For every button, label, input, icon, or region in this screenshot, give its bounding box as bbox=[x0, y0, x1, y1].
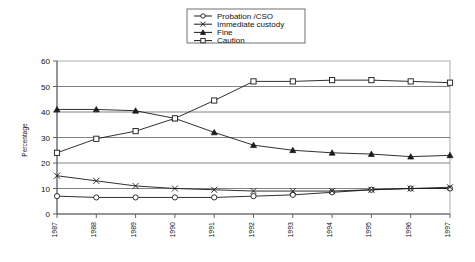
line-chart-container: 0102030405060 19871988198919901991199219… bbox=[0, 0, 475, 262]
x-axis-tick-labels: 1987198819891990199119921993199419951996… bbox=[51, 222, 451, 238]
data-point-marker bbox=[94, 136, 99, 141]
data-point-marker bbox=[94, 195, 99, 200]
data-point-marker bbox=[447, 80, 452, 85]
x-tick-label: 1995 bbox=[365, 222, 372, 238]
x-tick-label: 1990 bbox=[169, 222, 176, 238]
y-tick-label: 0 bbox=[46, 210, 51, 219]
data-point-marker bbox=[133, 129, 138, 134]
x-tick-label: 1996 bbox=[405, 222, 412, 238]
data-point-marker bbox=[212, 98, 217, 103]
gridlines bbox=[57, 87, 450, 189]
data-point-marker bbox=[290, 79, 295, 84]
series-line bbox=[57, 109, 450, 156]
y-tick-label: 10 bbox=[41, 185, 50, 194]
chart-canvas: 0102030405060 19871988198919901991199219… bbox=[0, 0, 475, 262]
x-tick-label: 1994 bbox=[326, 222, 333, 238]
data-point-marker bbox=[201, 14, 205, 18]
y-tick-label: 20 bbox=[41, 159, 50, 168]
y-axis-title: Percentage bbox=[21, 123, 29, 157]
data-point-marker bbox=[172, 116, 177, 121]
x-tick-label: 1989 bbox=[130, 222, 137, 238]
y-tick-label: 60 bbox=[41, 57, 50, 66]
data-point-marker bbox=[54, 194, 59, 199]
x-axis-ticks bbox=[57, 214, 450, 218]
series-immediate-custody bbox=[54, 173, 453, 194]
y-tick-label: 40 bbox=[41, 108, 50, 117]
data-point-marker bbox=[251, 79, 256, 84]
x-tick-label: 1991 bbox=[208, 222, 215, 238]
series-fine bbox=[54, 106, 453, 159]
x-tick-label: 1992 bbox=[248, 222, 255, 238]
series-probation-cso bbox=[54, 186, 452, 200]
x-tick-label: 1988 bbox=[90, 222, 97, 238]
data-point-marker bbox=[133, 195, 138, 200]
data-point-marker bbox=[172, 195, 177, 200]
data-point-marker bbox=[408, 79, 413, 84]
y-axis-ticks bbox=[53, 61, 57, 214]
data-series-layer bbox=[54, 78, 453, 200]
data-point-marker bbox=[212, 195, 217, 200]
data-point-marker bbox=[251, 194, 256, 199]
y-tick-label: 50 bbox=[41, 83, 50, 92]
legend-label: Caution bbox=[217, 36, 245, 45]
x-tick-label: 1997 bbox=[444, 222, 451, 238]
data-point-marker bbox=[330, 78, 335, 83]
y-axis-tick-labels: 0102030405060 bbox=[41, 57, 50, 219]
y-tick-label: 30 bbox=[41, 134, 50, 143]
data-point-marker bbox=[201, 38, 205, 42]
x-tick-label: 1987 bbox=[51, 222, 58, 238]
data-point-marker bbox=[54, 150, 59, 155]
chart-legend: Probation /CSOImmediate custodyFineCauti… bbox=[187, 9, 305, 45]
x-tick-label: 1993 bbox=[287, 222, 294, 238]
data-point-marker bbox=[369, 78, 374, 83]
